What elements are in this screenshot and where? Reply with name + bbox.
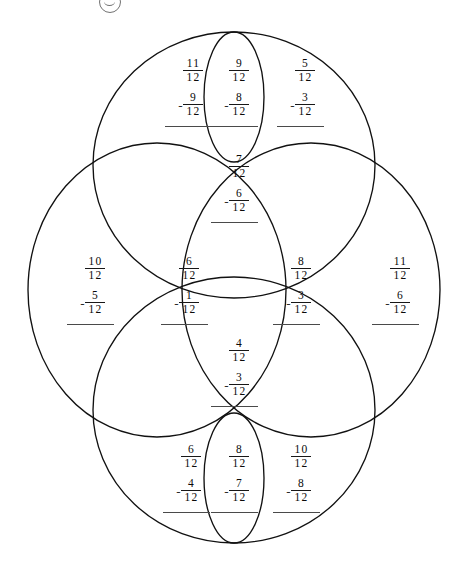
denominator: 12 xyxy=(229,456,250,470)
subtrahend-row: - 3 12 xyxy=(258,289,334,323)
numerator: 5 xyxy=(295,57,316,70)
numerator: 10 xyxy=(85,255,106,268)
subtrahend-row: - 3 12 xyxy=(262,91,338,125)
denominator: 12 xyxy=(229,70,250,84)
minuend-row: 5 12 xyxy=(262,57,338,91)
fraction-subtrahend: 1 12 xyxy=(179,289,200,315)
minus-operator: - xyxy=(75,289,85,310)
answer-line[interactable] xyxy=(211,222,258,223)
minus-operator: - xyxy=(173,91,183,112)
numerator: 10 xyxy=(291,443,312,456)
answer-line[interactable] xyxy=(273,512,320,513)
fraction-subtrahend: 3 12 xyxy=(229,371,250,397)
minus-operator: - xyxy=(281,289,291,310)
problem-bottom-right[interactable]: 10 12 - 8 12 xyxy=(258,443,334,513)
fraction-subtrahend: 8 12 xyxy=(291,477,312,503)
minus-operator: - xyxy=(219,477,229,498)
fraction-minuend: 7 12 xyxy=(229,153,250,179)
answer-line[interactable] xyxy=(372,324,419,325)
minus-operator: - xyxy=(171,477,181,498)
minus-operator: - xyxy=(219,371,229,392)
answer-line[interactable] xyxy=(273,324,320,325)
numerator: 4 xyxy=(229,337,250,350)
numerator: 7 xyxy=(229,477,250,490)
answer-line[interactable] xyxy=(161,324,208,325)
minus-operator: - xyxy=(219,187,229,208)
problem-mid-right[interactable]: 8 12 - 3 12 xyxy=(258,255,334,325)
numerator: 3 xyxy=(229,371,250,384)
subtrahend-row: - 5 12 xyxy=(52,289,128,323)
numerator: 8 xyxy=(229,91,250,104)
numerator: 8 xyxy=(291,477,312,490)
numerator: 8 xyxy=(229,443,250,456)
problem-lower-middle[interactable]: 4 12 - 3 12 xyxy=(196,337,272,407)
denominator: 12 xyxy=(85,302,106,316)
denominator: 12 xyxy=(229,166,250,180)
fraction-subtrahend: 6 12 xyxy=(390,289,411,315)
denominator: 12 xyxy=(291,268,312,282)
subtrahend-row: - 6 12 xyxy=(196,187,272,221)
denominator: 12 xyxy=(295,104,316,118)
denominator: 12 xyxy=(179,268,200,282)
numerator: 5 xyxy=(85,289,106,302)
problem-mid-far-left[interactable]: 10 12 - 5 12 xyxy=(52,255,128,325)
problem-mid-left[interactable]: 6 12 - 1 12 xyxy=(146,255,222,325)
worksheet-canvas: 11 12 - 9 12 9 12 - 8 12 xyxy=(0,0,467,574)
minuend-row: 4 12 xyxy=(196,337,272,371)
numerator: 1 xyxy=(179,289,200,302)
minuend-row: 8 12 xyxy=(258,255,334,289)
fraction-subtrahend: 7 12 xyxy=(229,477,250,503)
denominator: 12 xyxy=(291,456,312,470)
minuend-row: 10 12 xyxy=(52,255,128,289)
fraction-subtrahend: 5 12 xyxy=(85,289,106,315)
numerator: 8 xyxy=(291,255,312,268)
numerator: 3 xyxy=(291,289,312,302)
denominator: 12 xyxy=(229,104,250,118)
denominator: 12 xyxy=(390,268,411,282)
answer-line[interactable] xyxy=(211,406,258,407)
problem-top-right[interactable]: 5 12 - 3 12 xyxy=(262,57,338,127)
minus-operator: - xyxy=(380,289,390,310)
numerator: 6 xyxy=(179,255,200,268)
fraction-minuend: 8 12 xyxy=(229,443,250,469)
answer-line[interactable] xyxy=(211,512,258,513)
subtrahend-row: - 6 12 xyxy=(357,289,433,323)
numerator: 6 xyxy=(229,187,250,200)
minuend-row: 9 12 xyxy=(196,57,272,91)
fraction-minuend: 10 12 xyxy=(85,255,106,281)
denominator: 12 xyxy=(291,302,312,316)
fraction-minuend: 4 12 xyxy=(229,337,250,363)
denominator: 12 xyxy=(291,490,312,504)
denominator: 12 xyxy=(229,384,250,398)
fraction-subtrahend: 3 12 xyxy=(291,289,312,315)
fraction-subtrahend: 3 12 xyxy=(295,91,316,117)
fraction-minuend: 6 12 xyxy=(179,255,200,281)
numerator: 11 xyxy=(390,255,411,268)
fraction-minuend: 9 12 xyxy=(229,57,250,83)
subtrahend-row: - 3 12 xyxy=(196,371,272,405)
minus-operator: - xyxy=(169,289,179,310)
fraction-minuend: 5 12 xyxy=(295,57,316,83)
subtrahend-row: - 8 12 xyxy=(258,477,334,511)
fraction-subtrahend: 6 12 xyxy=(229,187,250,213)
minus-operator: - xyxy=(285,91,295,112)
denominator: 12 xyxy=(85,268,106,282)
fraction-minuend: 11 12 xyxy=(390,255,411,281)
fraction-minuend: 8 12 xyxy=(291,255,312,281)
denominator: 12 xyxy=(390,302,411,316)
minuend-row: 7 12 xyxy=(196,153,272,187)
minuend-row: 6 12 xyxy=(146,255,222,289)
answer-line[interactable] xyxy=(67,324,114,325)
problem-upper-middle[interactable]: 7 12 - 6 12 xyxy=(196,153,272,223)
denominator: 12 xyxy=(229,200,250,214)
minuend-row: 11 12 xyxy=(357,255,433,289)
problem-mid-far-right[interactable]: 11 12 - 6 12 xyxy=(357,255,433,325)
answer-line[interactable] xyxy=(277,126,324,127)
fraction-subtrahend: 8 12 xyxy=(229,91,250,117)
numerator: 6 xyxy=(390,289,411,302)
answer-line[interactable] xyxy=(211,126,258,127)
minuend-row: 10 12 xyxy=(258,443,334,477)
minus-operator: - xyxy=(219,91,229,112)
problem-top-center[interactable]: 9 12 - 8 12 xyxy=(196,57,272,127)
denominator: 12 xyxy=(229,490,250,504)
